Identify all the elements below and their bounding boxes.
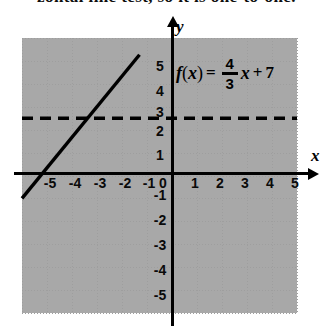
tick-label-x-2: 2 [213,176,227,190]
x-axis-label: x [311,146,320,166]
coordinate-plane: x y 0 -5 -4 -3 -2 -1 1 2 3 4 5 5 4 3 2 1… [0,0,333,332]
tick-label-y--1: -1 [150,188,170,202]
plot-lines [0,0,333,332]
tick-label-x--5: -5 [40,176,60,190]
tick-label-y--4: -4 [150,263,170,277]
tick-label-x-4: 4 [263,176,277,190]
tick-label-y-4: 4 [153,84,167,98]
tick-label-x-1: 1 [188,176,202,190]
y-axis-label: y [176,17,184,37]
tick-label-x--4: -4 [65,176,85,190]
tick-label-y--2: -2 [150,213,170,227]
equation-label: f ( x ) = 4 3 x + 7 [176,56,274,91]
equation-fraction: 4 3 [222,56,238,91]
tick-label-y-2: 2 [153,124,167,138]
fraction-denominator: 3 [225,76,235,91]
tick-label-x-5: 5 [288,176,302,190]
tick-label-x--3: -3 [90,176,110,190]
graph-figure: zontal line test, so it is one-to-one. x… [0,0,333,332]
tick-label-y-3: 3 [153,105,167,119]
equation-plus: + [253,63,263,83]
equation-close-paren: ) [197,63,203,84]
x-axis-arrow-icon [308,168,319,180]
tick-label-x-3: 3 [238,176,252,190]
equation-equals: = [206,63,216,83]
tick-label-y--5: -5 [150,288,170,302]
y-axis [171,26,174,326]
equation-argument: x [188,63,197,84]
fraction-numerator: 4 [225,56,235,71]
tick-label-x--2: -2 [115,176,135,190]
tick-label-y--3: -3 [150,238,170,252]
equation-variable: x [241,63,250,84]
tick-label-y-1: 1 [153,148,167,162]
tick-label-y-5: 5 [153,59,167,73]
equation-constant: 7 [265,63,274,83]
